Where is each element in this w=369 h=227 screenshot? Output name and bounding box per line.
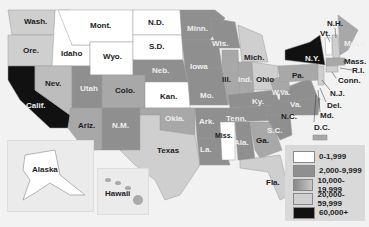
state-conn bbox=[326, 66, 338, 72]
label-nc: N.C. bbox=[281, 113, 297, 121]
legend-item: 20,000-59,999 bbox=[293, 192, 365, 205]
legend: 0-1,999 2,000-9,999 10,000-19,999 20,000… bbox=[285, 145, 365, 221]
label-miss: Miss. bbox=[215, 132, 233, 139]
label-ariz: Ariz. bbox=[78, 122, 95, 130]
label-wyo: Wyo. bbox=[103, 53, 122, 61]
label-colo: Colo. bbox=[115, 87, 135, 95]
alaska-shape bbox=[15, 145, 90, 205]
label-tenn: Tenn. bbox=[226, 115, 247, 123]
label-ky: Ky. bbox=[252, 98, 264, 106]
label-mich: Mich. bbox=[244, 54, 264, 62]
legend-swatch bbox=[293, 151, 315, 163]
legend-swatch bbox=[293, 207, 315, 219]
label-iowa: Iowa bbox=[190, 63, 208, 71]
label-ill: Ill. bbox=[222, 76, 231, 84]
legend-item: 60,000+ bbox=[293, 206, 348, 219]
label-hawaii: Hawaii bbox=[105, 190, 130, 198]
label-mont: Mont. bbox=[90, 22, 111, 30]
label-calif: Calif. bbox=[26, 102, 46, 110]
label-utah: Utah bbox=[80, 85, 98, 93]
label-wis: Wis. bbox=[212, 40, 228, 48]
label-neb: Neb. bbox=[152, 67, 169, 75]
label-wash: Wash. bbox=[24, 18, 47, 26]
label-mo: Mo. bbox=[200, 92, 214, 100]
label-ohio: Ohio bbox=[256, 76, 274, 84]
label-la: La. bbox=[200, 146, 212, 154]
legend-label: 2,000-9,999 bbox=[319, 166, 362, 175]
label-dc: D.C. bbox=[314, 124, 330, 132]
label-ind: Ind. bbox=[238, 76, 252, 84]
label-nm: N.M. bbox=[112, 122, 129, 130]
label-idaho: Idaho bbox=[61, 50, 82, 58]
label-wva: W.Va. bbox=[272, 89, 290, 96]
label-conn: Conn. bbox=[338, 77, 361, 85]
state-miss bbox=[220, 122, 235, 160]
label-texas: Texas bbox=[157, 147, 179, 155]
label-maine: Maine bbox=[344, 40, 367, 48]
label-va: Va. bbox=[290, 101, 302, 109]
label-ala: Ala. bbox=[234, 139, 249, 147]
label-nd: N.D. bbox=[148, 19, 164, 27]
label-alaska: Alaska bbox=[32, 166, 58, 174]
legend-swatch bbox=[293, 179, 313, 191]
label-sc: S.C. bbox=[267, 127, 283, 135]
state-nj bbox=[318, 66, 324, 85]
label-nj: N.J. bbox=[330, 90, 345, 98]
label-minn: Minn. bbox=[187, 25, 208, 33]
label-ri: R.I. bbox=[352, 67, 364, 75]
label-nh: N.H. bbox=[327, 20, 343, 28]
label-md: Md. bbox=[320, 112, 334, 120]
label-ga: Ga. bbox=[256, 137, 269, 145]
state-mass bbox=[326, 58, 345, 66]
dc-swatch bbox=[313, 135, 327, 140]
legend-label: 0-1,999 bbox=[319, 152, 346, 161]
label-sd: S.D. bbox=[149, 43, 165, 51]
label-del: Del. bbox=[327, 102, 342, 110]
label-ark: Ark. bbox=[199, 118, 215, 126]
label-ore: Ore. bbox=[23, 47, 39, 55]
label-mass: Mass. bbox=[344, 58, 366, 66]
label-vt: Vt. bbox=[320, 30, 330, 38]
label-okla: Okla. bbox=[165, 115, 185, 123]
legend-item: 0-1,999 bbox=[293, 150, 346, 163]
label-kan: Kan. bbox=[160, 93, 177, 101]
state-vt bbox=[325, 38, 332, 55]
legend-swatch bbox=[293, 165, 315, 177]
label-fla: Fla. bbox=[266, 179, 280, 187]
label-pa: Pa. bbox=[292, 72, 304, 80]
legend-label: 20,000-59,999 bbox=[317, 190, 365, 208]
label-nev: Nev. bbox=[45, 80, 61, 88]
legend-swatch bbox=[293, 193, 313, 205]
legend-label: 60,000+ bbox=[319, 208, 348, 217]
label-ny: N.Y. bbox=[305, 55, 320, 63]
